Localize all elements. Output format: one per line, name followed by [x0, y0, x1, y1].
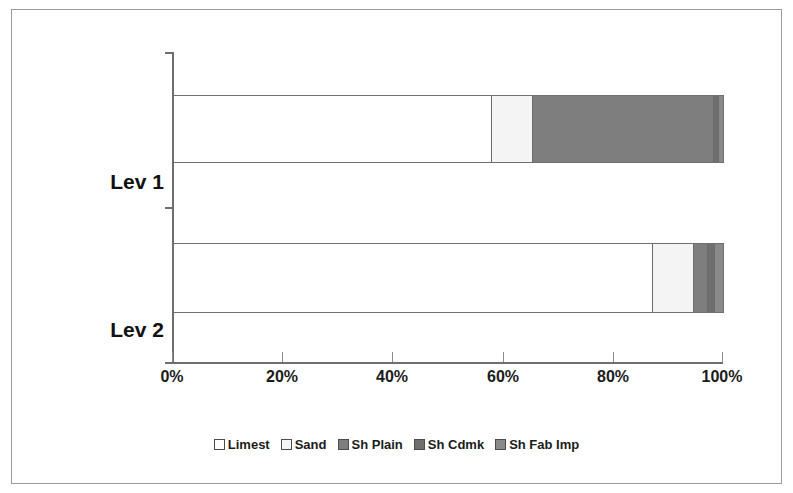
y-axis-category-labels: Lev 1 Lev 2 [0, 52, 164, 364]
x-axis-tick [172, 352, 173, 362]
legend-item-sh-plain: Sh Plain [338, 437, 403, 452]
legend-swatch-icon [214, 439, 225, 450]
stacked-bar-lev-2 [173, 243, 724, 313]
legend-label: Sh Fab Imp [509, 437, 579, 452]
x-axis-tick [722, 352, 723, 362]
legend-swatch-icon [281, 439, 292, 450]
x-axis-line [172, 362, 723, 364]
bar-segment-limest [174, 96, 492, 162]
bar-segment-limest [174, 244, 653, 312]
legend-label: Sh Cdmk [428, 437, 484, 452]
legend-swatch-icon [414, 439, 425, 450]
x-axis-tick [392, 352, 393, 362]
legend-label: Sand [295, 437, 327, 452]
bar-segment-sh-plain [694, 244, 708, 312]
stacked-bar-lev-1 [173, 95, 724, 163]
bar-segment-sand [492, 96, 533, 162]
bar-segment-sh-fab-imp [719, 96, 723, 162]
chart-legend: LimestSandSh PlainSh CdmkSh Fab Imp [0, 437, 793, 452]
bar-segment-sand [653, 244, 694, 312]
x-axis-tick-label: 80% [597, 368, 629, 386]
legend-item-sand: Sand [281, 437, 327, 452]
legend-item-limest: Limest [214, 437, 270, 452]
y-axis-label-lev-1: Lev 1 [110, 170, 164, 194]
y-axis-tick [165, 207, 172, 209]
bar-segment-sh-fab-imp [715, 244, 723, 312]
legend-swatch-icon [338, 439, 349, 450]
x-axis-tick-label: 0% [160, 368, 183, 386]
legend-item-sh-fab-imp: Sh Fab Imp [495, 437, 579, 452]
chart-figure: Lev 1 Lev 2 0% 20% 40% 60% 80% 100% Lime… [0, 0, 793, 493]
legend-label: Limest [228, 437, 270, 452]
x-axis-tick-label: 100% [702, 368, 743, 386]
legend-swatch-icon [495, 439, 506, 450]
x-axis-tick [282, 352, 283, 362]
plot-area: 0% 20% 40% 60% 80% 100% [172, 52, 723, 364]
x-axis-tick [613, 352, 614, 362]
y-axis-tick [165, 362, 172, 364]
legend-label: Sh Plain [352, 437, 403, 452]
y-axis-label-lev-2: Lev 2 [110, 318, 164, 342]
legend-item-sh-cdmk: Sh Cdmk [414, 437, 484, 452]
y-axis-tick [165, 52, 172, 54]
x-axis-tick-label: 20% [266, 368, 298, 386]
x-axis-tick [503, 352, 504, 362]
x-axis-tick-label: 40% [376, 368, 408, 386]
bar-segment-sh-plain [533, 96, 714, 162]
x-axis-tick-label: 60% [487, 368, 519, 386]
bar-segment-sh-cdmk [708, 244, 715, 312]
